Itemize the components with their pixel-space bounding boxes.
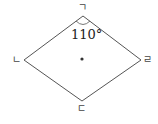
vertex-label-bottom: ㄷ <box>77 104 86 114</box>
angle-label: 110° <box>71 28 102 41</box>
vertex-label-top: ㄱ <box>78 3 87 13</box>
vertex-label-right: ㄹ <box>143 55 152 65</box>
angle-arc <box>76 21 90 25</box>
center-point <box>80 57 83 60</box>
vertex-label-left: ㄴ <box>12 55 21 65</box>
